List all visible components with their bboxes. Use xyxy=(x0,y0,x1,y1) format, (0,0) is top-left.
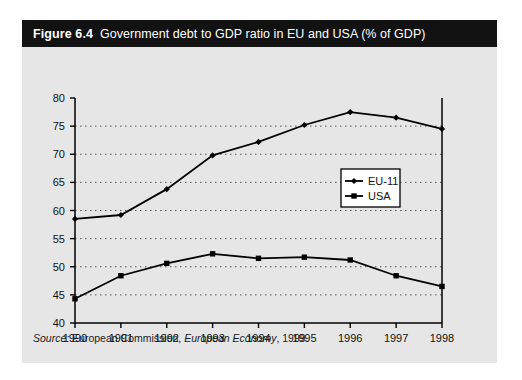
x-axis-label: 1996 xyxy=(338,332,362,344)
source-label: Source: xyxy=(33,332,69,344)
source-organization: European Commission, xyxy=(69,332,184,344)
y-axis-labels: 404550556065707580 xyxy=(53,92,65,329)
data-point-usa xyxy=(118,273,123,278)
data-point-usa xyxy=(439,284,444,289)
data-point-eu-11 xyxy=(347,109,353,115)
source-year: , 1999. xyxy=(276,332,308,344)
figure-number: Figure 6.4 xyxy=(33,27,93,41)
y-axis-label: 80 xyxy=(53,92,65,104)
y-axis-label: 40 xyxy=(53,317,65,329)
legend-marker-usa xyxy=(351,193,356,198)
data-point-eu-11 xyxy=(255,139,261,145)
y-axis-label: 70 xyxy=(53,148,65,160)
data-point-usa xyxy=(348,257,353,262)
data-point-eu-11 xyxy=(393,115,399,121)
data-point-usa xyxy=(164,261,169,266)
data-point-usa xyxy=(302,254,307,259)
y-axis-label: 65 xyxy=(53,176,65,188)
data-point-usa xyxy=(72,296,77,301)
figure-title: Government debt to GDP ratio in EU and U… xyxy=(100,27,425,41)
data-point-eu-11 xyxy=(72,216,78,222)
y-axis-label: 50 xyxy=(53,261,65,273)
data-point-eu-11 xyxy=(439,126,445,132)
figure-title-bar: Figure 6.4 Government debt to GDP ratio … xyxy=(22,20,497,47)
data-point-eu-11 xyxy=(301,122,307,128)
data-point-usa xyxy=(393,273,398,278)
chart-legend: EU-11USA xyxy=(341,169,400,207)
source-publication: European Economy xyxy=(184,332,276,344)
legend-label-usa: USA xyxy=(368,190,391,202)
y-axis-label: 60 xyxy=(53,205,65,217)
y-axis-label: 45 xyxy=(53,289,65,301)
data-point-usa xyxy=(256,256,261,261)
x-axis-label: 1998 xyxy=(430,332,454,344)
chart-plot-area: 404550556065707580 199019911992199319941… xyxy=(22,47,497,363)
line-chart: 404550556065707580 199019911992199319941… xyxy=(22,47,497,363)
data-point-usa xyxy=(210,251,215,256)
legend-label-eu-11: EU-11 xyxy=(368,175,398,187)
x-axis-label: 1997 xyxy=(384,332,408,344)
y-axis-label: 75 xyxy=(53,120,65,132)
y-axis-label: 55 xyxy=(53,233,65,245)
source-note: Source: European Commission, European Ec… xyxy=(33,332,309,344)
figure-panel: Figure 6.4 Government debt to GDP ratio … xyxy=(22,20,497,363)
